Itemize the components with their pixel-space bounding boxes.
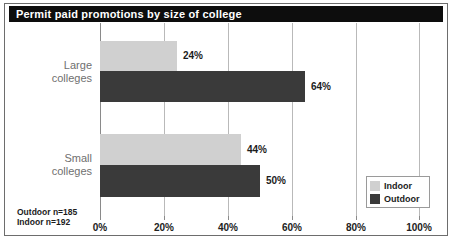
chart-title-bar: Permit paid promotions by size of colleg… (9, 6, 443, 22)
bar-label-small-indoor: 44% (247, 144, 267, 155)
x-axis-label-0: 0% (93, 222, 107, 233)
x-axis-label-40: 40% (218, 222, 238, 233)
x-tick-80 (356, 216, 357, 220)
x-axis-label-60: 60% (282, 222, 302, 233)
category-label-small-line2: colleges (4, 165, 92, 178)
bar-label-large-outdoor: 64% (311, 81, 331, 92)
x-axis-label-100: 100% (406, 222, 432, 233)
bar-large-outdoor (100, 71, 305, 102)
note-indoor-n: Indoor n=192 (17, 217, 70, 227)
chart-legend: Indoor Outdoor (366, 176, 430, 208)
gridline-80 (356, 23, 357, 216)
page-title: Permit paid promotions by size of colleg… (16, 8, 242, 20)
category-label-large-line1: Large (4, 59, 92, 72)
x-tick-40 (228, 216, 229, 220)
category-label-large-line2: colleges (4, 72, 92, 85)
legend-swatch-indoor-icon (370, 181, 380, 191)
x-tick-100 (419, 216, 420, 220)
note-outdoor-n: Outdoor n=185 (17, 207, 77, 217)
gridline-60 (292, 23, 293, 216)
bar-label-small-outdoor: 50% (266, 175, 286, 186)
category-label-large-colleges: Large colleges (4, 59, 92, 85)
bar-small-outdoor (100, 165, 260, 197)
bar-small-indoor (100, 134, 241, 165)
bar-label-large-indoor: 24% (183, 50, 203, 61)
category-label-small-colleges: Small colleges (4, 152, 92, 178)
chart-figure: Permit paid promotions by size of colleg… (0, 0, 455, 242)
x-tick-0 (100, 216, 101, 220)
legend-label-indoor: Indoor (384, 180, 412, 192)
x-tick-20 (164, 216, 165, 220)
x-tick-60 (292, 216, 293, 220)
bar-large-indoor (100, 41, 177, 71)
x-axis-label-80: 80% (346, 222, 366, 233)
legend-label-outdoor: Outdoor (384, 193, 420, 205)
category-label-small-line1: Small (4, 152, 92, 165)
legend-swatch-outdoor-icon (370, 194, 380, 204)
x-axis-label-20: 20% (154, 222, 174, 233)
